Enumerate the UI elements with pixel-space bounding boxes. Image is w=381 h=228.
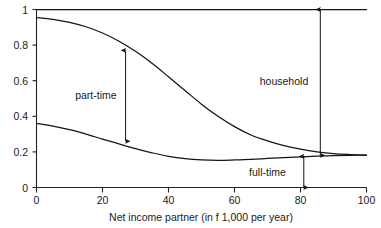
y-tick-label-0: 0	[22, 182, 28, 194]
full-time-label: full-time	[249, 166, 286, 178]
y-tick-marks	[33, 10, 37, 188]
y-tick-label-0.8: 0.8	[13, 39, 28, 51]
x-tick-label-20: 20	[97, 194, 109, 206]
chart-container: 1 0.8 0.6 0.4 0.2 0 0 20 40 60 80 100 Ne…	[0, 0, 381, 228]
y-tick-label-0.2: 0.2	[13, 146, 28, 158]
curve-full-time	[37, 123, 367, 160]
x-tick-label-80: 80	[295, 194, 307, 206]
household-label: household	[260, 75, 309, 87]
data-curves-group	[37, 10, 367, 161]
y-tick-label-0.4: 0.4	[13, 110, 28, 122]
chart-plot: 1 0.8 0.6 0.4 0.2 0 0 20 40 60 80 100 Ne…	[0, 0, 381, 228]
y-tick-label-1: 1	[22, 4, 28, 16]
x-axis-title: Net income partner (in f 1,000 per year)	[109, 211, 293, 223]
y-tick-label-0.6: 0.6	[13, 75, 28, 87]
annotation-full-time: full-time	[249, 156, 304, 187]
part-time-label: part-time	[75, 89, 117, 101]
y-tick-labels: 1 0.8 0.6 0.4 0.2 0	[13, 4, 28, 194]
x-tick-marks	[37, 188, 367, 193]
annotation-household: household	[260, 10, 321, 156]
annotation-part-time: part-time	[75, 50, 125, 141]
x-tick-label-0: 0	[34, 194, 40, 206]
x-tick-label-60: 60	[229, 194, 241, 206]
x-tick-label-100: 100	[358, 194, 376, 206]
x-tick-label-40: 40	[163, 194, 175, 206]
x-tick-labels: 0 20 40 60 80 100	[34, 194, 376, 206]
